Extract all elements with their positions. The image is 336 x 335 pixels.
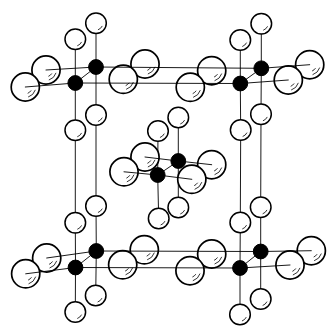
atom-anion_small-bottom-left-below-back	[85, 285, 106, 306]
atom-anion_small-bottom-right-above-back	[250, 197, 271, 218]
atom-anion_small-bottom-right-below-back	[250, 289, 271, 310]
atom-anion_small-center-above-front	[148, 121, 169, 142]
atom-anion_large-bottom-left-right-front	[109, 251, 137, 279]
atom-anion_small-top-left-below-back	[86, 105, 107, 126]
atom-anion_large-top-left-right-front	[109, 65, 137, 93]
atom-anion_small-center-below-back	[168, 197, 189, 218]
atom-anion_small-top-right-above-front	[230, 30, 251, 51]
atom-anion_small-bottom-right-above-front	[230, 212, 251, 233]
atom-anion_small-bottom-left-below-front	[65, 302, 86, 323]
atom-anion_small-top-left-above-back	[86, 13, 107, 34]
atom-anion_small-center-above-back	[168, 107, 189, 128]
atom-anion_small-bottom-left-above-back	[86, 196, 107, 217]
figure-page	[0, 0, 336, 335]
atom-anion_small-center-below-front	[148, 208, 169, 229]
atom-anion_large-bottom-right-left-front	[176, 257, 204, 285]
atom-anion_small-bottom-left-above-front	[65, 213, 86, 234]
atom-anion_small-top-left-above-front	[65, 29, 86, 50]
atom-anion_small-bottom-right-below-front	[230, 304, 251, 325]
crystal-structure-diagram	[0, 0, 336, 335]
atom-anion_small-top-left-below-front	[65, 120, 86, 141]
atom-anion_large-top-right-left-front	[176, 73, 204, 101]
atom-anion_small-top-right-above-back	[251, 13, 272, 34]
atom-anion_small-top-right-below-back	[251, 104, 272, 125]
atom-anion_small-top-right-below-front	[230, 120, 251, 141]
